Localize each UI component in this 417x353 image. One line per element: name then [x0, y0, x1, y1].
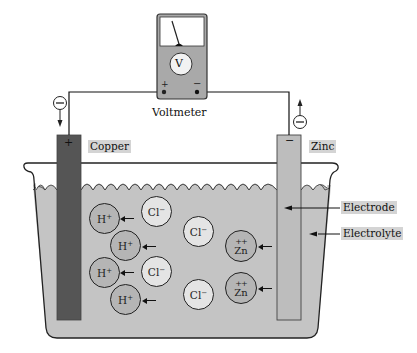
copper-polarity: + [64, 136, 73, 149]
wire-left [69, 92, 158, 135]
hydrogen-ion: H+ [110, 284, 141, 315]
voltmeter-dial-window [160, 17, 204, 46]
hydrogen-ion: H+ [89, 257, 120, 288]
voltmeter-label: Voltmeter [152, 106, 207, 119]
voltmeter-plus-sign: + [161, 78, 169, 91]
ion-arrow [124, 218, 134, 219]
hydrogen-ion: H+ [110, 230, 141, 261]
voltmeter-v-symbol: V [175, 57, 183, 70]
zinc-ion: ++Zn [225, 230, 257, 262]
chloride-ion: Cl− [183, 279, 214, 310]
chloride-ion: Cl− [141, 196, 172, 227]
zinc-label: Zinc [309, 140, 336, 153]
ion-arrow [124, 272, 134, 273]
wire-right [204, 92, 289, 135]
ion-arrow [262, 246, 272, 247]
voltmeter-negative-terminal [195, 90, 199, 94]
ion-arrow [146, 300, 156, 301]
voltmeter-minus-sign: − [193, 77, 201, 90]
copper-label: Copper [88, 140, 131, 153]
zinc-ion: ++Zn [225, 272, 257, 304]
chloride-ion: Cl− [141, 256, 172, 287]
ion-arrow [262, 288, 272, 289]
chloride-ion: Cl− [183, 216, 214, 247]
hydrogen-ion: H+ [89, 203, 120, 234]
electrolyte-label: Electrolyte [341, 227, 403, 240]
ion-arrow [146, 246, 156, 247]
zinc-polarity: − [285, 134, 294, 147]
zinc-electrode [277, 135, 301, 320]
arrow-up-icon [298, 99, 303, 106]
arrow-down-icon [58, 120, 63, 127]
electrode-label: Electrode [341, 201, 397, 214]
copper-electrode [57, 135, 81, 320]
